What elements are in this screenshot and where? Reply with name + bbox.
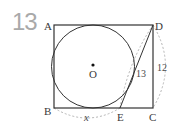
label-dc-length: 12 [157,62,167,73]
label-d: D [155,20,163,32]
geometry-figure: A D B E C O 13 12 x [0,0,177,126]
rectangle-abcd [54,25,153,108]
label-de-length: 13 [136,68,146,79]
segment-de [120,25,153,108]
center-point [91,63,94,66]
label-be-length: x [83,111,89,123]
label-e: E [117,111,124,123]
label-b: B [44,105,51,117]
label-c: C [149,111,156,123]
label-a: A [44,20,52,32]
label-o: O [89,68,97,80]
